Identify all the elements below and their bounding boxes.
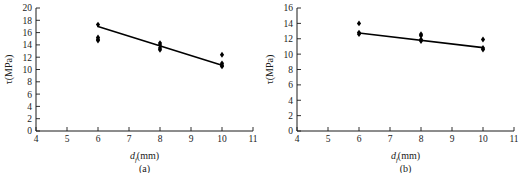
y-axis-tick-label: 16 <box>284 3 294 13</box>
y-axis-tick-label: 12 <box>23 53 33 63</box>
panel-caption: (b) <box>400 163 412 173</box>
y-axis-tick-label: 2 <box>288 111 293 121</box>
chart-panel-b: 45678910110246810121416τ(MPa)df(mm)(b) <box>261 0 522 173</box>
x-axis-title: df(mm) <box>391 150 420 164</box>
y-axis-title: τ(MPa) <box>264 55 276 85</box>
x-axis-tick-label: 4 <box>34 134 39 144</box>
x-axis-tick-label: 7 <box>127 134 132 144</box>
x-axis-tick-label: 11 <box>509 134 518 144</box>
y-axis-tick-label: 14 <box>23 40 33 50</box>
x-axis-tick-label: 6 <box>357 134 362 144</box>
x-axis-tick-label: 10 <box>478 134 488 144</box>
y-axis-tick-label: 2 <box>27 114 32 124</box>
x-axis-tick-label: 5 <box>65 134 70 144</box>
x-axis-tick-label: 8 <box>419 134 424 144</box>
y-axis-tick-label: 0 <box>27 126 32 136</box>
figure-container: 456789101102468101214161820τ(MPa)df(mm)(… <box>0 0 522 173</box>
x-axis-tick-label: 8 <box>158 134 163 144</box>
x-axis-tick-label: 9 <box>189 134 194 144</box>
chart-b-canvas: 45678910110246810121416τ(MPa)df(mm)(b) <box>261 0 522 173</box>
x-axis-tick-label: 6 <box>96 134 101 144</box>
y-axis-tick-label: 0 <box>288 126 293 136</box>
x-axis-title-unit: (mm) <box>137 150 159 162</box>
y-axis-tick-label: 6 <box>27 90 32 100</box>
panel-caption: (a) <box>139 163 150 173</box>
y-axis-tick-label: 6 <box>288 80 293 90</box>
data-point <box>481 37 485 43</box>
y-axis-tick-label: 16 <box>23 28 33 38</box>
y-axis-tick-label: 4 <box>288 96 293 106</box>
y-axis-tick-label: 10 <box>23 65 33 75</box>
chart-panel-a: 456789101102468101214161820τ(MPa)df(mm)(… <box>0 0 261 173</box>
x-axis-tick-label: 7 <box>388 134 393 144</box>
chart-a-canvas: 456789101102468101214161820τ(MPa)df(mm)(… <box>0 0 261 173</box>
data-point <box>220 52 224 58</box>
x-axis-tick-label: 9 <box>450 134 455 144</box>
y-axis-tick-label: 8 <box>27 77 32 87</box>
x-axis-title-unit: (mm) <box>398 150 420 162</box>
y-axis-tick-label: 18 <box>23 16 33 26</box>
trend-line <box>98 26 222 65</box>
y-axis-tick-label: 20 <box>23 3 33 13</box>
y-axis-tick-label: 10 <box>284 50 294 60</box>
y-axis-tick-label: 4 <box>27 102 32 112</box>
data-point <box>357 20 361 26</box>
x-axis-title: df(mm) <box>130 150 159 164</box>
y-axis-title: τ(MPa) <box>3 55 15 85</box>
y-axis-tick-label: 12 <box>284 34 294 44</box>
y-axis-tick-label: 8 <box>288 65 293 75</box>
x-axis-tick-label: 4 <box>295 134 300 144</box>
x-axis-tick-label: 10 <box>217 134 227 144</box>
y-axis-tick-label: 14 <box>284 19 294 29</box>
x-axis-tick-label: 5 <box>326 134 331 144</box>
x-axis-tick-label: 11 <box>248 134 257 144</box>
